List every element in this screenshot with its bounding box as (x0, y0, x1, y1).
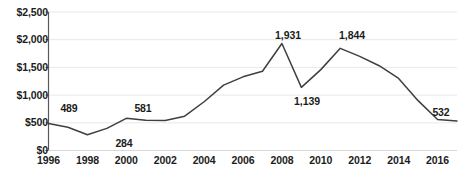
chart-plot-area (0, 0, 463, 177)
y-axis-tick-label: $1,500 (2, 62, 48, 73)
x-axis-tick-label: 2004 (193, 154, 216, 166)
y-axis-tick-label: $1,000 (2, 90, 48, 101)
data-point-label: 1,931 (275, 30, 301, 41)
line-chart: $0$500$1,000$1,500$2,000$2,500 199619982… (0, 0, 463, 177)
y-axis-tick-label: $2,000 (2, 34, 48, 45)
x-axis-tick-label: 1998 (76, 154, 99, 166)
x-axis-tick-label: 1996 (37, 154, 60, 166)
x-axis-tick-label: 2008 (270, 154, 293, 166)
data-point-label: 1,844 (339, 30, 365, 41)
x-axis-tick-label: 2010 (309, 154, 332, 166)
y-axis-tick-label: $2,500 (2, 7, 48, 18)
x-axis-tick-label: 2012 (348, 154, 371, 166)
data-point-label: 532 (432, 107, 449, 118)
data-point-label: 1,139 (294, 96, 320, 107)
gridlines (49, 12, 458, 123)
x-axis-tick-label: 2016 (426, 154, 449, 166)
x-axis-tick-label: 2002 (154, 154, 177, 166)
x-axis-tick-label: 2000 (115, 154, 138, 166)
data-point-label: 284 (115, 138, 132, 149)
data-series-line (49, 44, 458, 135)
y-axis-tick-label: $500 (2, 117, 48, 128)
data-point-label: 581 (134, 103, 151, 114)
data-point-label: 489 (60, 103, 77, 114)
x-axis-tick-label: 2006 (232, 154, 255, 166)
y-axis-labels: $0$500$1,000$1,500$2,000$2,500 (0, 0, 48, 177)
x-axis-tick-label: 2014 (387, 154, 410, 166)
